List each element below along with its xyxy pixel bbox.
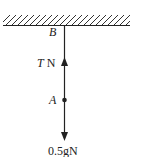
particle-a-dot [62,98,67,103]
label-a: A [48,93,57,107]
label-b: B [49,25,57,39]
weight-arrow-icon [61,132,68,141]
ceiling-hatching [0,15,136,25]
label-tension: T N [37,56,56,70]
tension-arrow-icon [61,57,68,66]
label-weight: 0.5gN [48,144,78,157]
force-diagram: B T N A 0.5gN [0,0,141,157]
